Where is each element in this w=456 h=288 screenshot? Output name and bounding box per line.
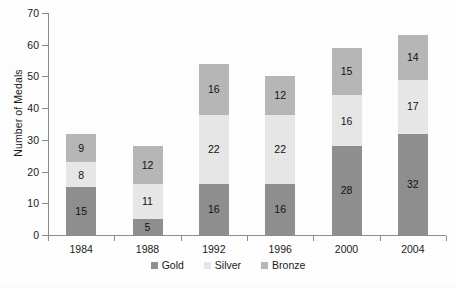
chart-legend: GoldSilverBronze [0, 259, 456, 271]
y-axis-tick-label: 50 [27, 70, 39, 82]
x-axis-tick-label: 2004 [401, 243, 424, 255]
bar-segment-value-label: 11 [142, 196, 153, 207]
bar-segment-gold[interactable]: 16 [265, 184, 295, 235]
bar-segment-silver[interactable]: 11 [133, 184, 163, 219]
bar-segment-value-label: 9 [78, 143, 84, 154]
bar-segment-value-label: 28 [341, 185, 353, 196]
bar-segment-value-label: 22 [274, 144, 286, 155]
bar-segment-value-label: 16 [274, 204, 286, 215]
bar-segment-gold[interactable]: 32 [398, 134, 428, 235]
x-axis-tick-mark [446, 236, 447, 241]
legend-swatch-icon [151, 262, 158, 269]
legend-swatch-icon [204, 262, 211, 269]
legend-item-silver[interactable]: Silver [204, 259, 241, 271]
bar-segment-bronze[interactable]: 16 [199, 64, 229, 115]
legend-item-bronze[interactable]: Bronze [261, 259, 305, 271]
bar-segment-bronze[interactable]: 12 [265, 76, 295, 114]
plot-area: 010203040506070 198419881992199620002004… [48, 13, 446, 236]
x-axis-tick-mark [48, 236, 49, 241]
bar-stack[interactable]: 321714 [398, 35, 428, 235]
y-axis-tick-mark [42, 13, 48, 14]
y-axis-tick-label: 40 [27, 102, 39, 114]
x-axis-tick-label: 1996 [268, 243, 291, 255]
bar-segment-value-label: 12 [142, 160, 154, 171]
x-axis-tick-label: 1984 [69, 243, 92, 255]
y-axis-tick-mark [42, 140, 48, 141]
bar-segment-value-label: 15 [341, 66, 353, 77]
y-axis-tick-mark [42, 172, 48, 173]
x-axis-tick-mark [247, 236, 248, 241]
y-axis-tick-mark [42, 76, 48, 77]
bar-segment-silver[interactable]: 16 [332, 95, 362, 146]
y-axis-tick-mark [42, 108, 48, 109]
y-axis-tick-label: 20 [27, 166, 39, 178]
bar-stack[interactable]: 51112 [133, 146, 163, 235]
bar-stack[interactable]: 281615 [332, 48, 362, 235]
bar-segment-value-label: 16 [208, 84, 220, 95]
bar-segment-silver[interactable]: 8 [66, 162, 96, 187]
bar-segment-value-label: 8 [78, 170, 84, 181]
legend-item-gold[interactable]: Gold [151, 259, 184, 271]
bar-segment-value-label: 5 [145, 222, 151, 233]
bar-segment-value-label: 12 [274, 90, 286, 101]
bar-stack[interactable]: 162216 [199, 64, 229, 235]
y-axis-title: Number of Medals [12, 58, 24, 168]
y-axis-tick-mark [42, 45, 48, 46]
bar-segment-value-label: 16 [208, 204, 220, 215]
bar-segment-bronze[interactable]: 12 [133, 146, 163, 184]
y-axis-tick-label: 30 [27, 134, 39, 146]
y-axis-line [48, 13, 49, 236]
y-axis-tick-label: 0 [33, 229, 39, 241]
x-axis-tick-mark [181, 236, 182, 241]
legend-swatch-icon [261, 262, 268, 269]
bar-segment-gold[interactable]: 5 [133, 219, 163, 235]
bar-segment-value-label: 17 [407, 101, 419, 112]
bar-segment-silver[interactable]: 22 [265, 115, 295, 185]
bar-segment-value-label: 16 [341, 116, 353, 127]
bar-segment-gold[interactable]: 15 [66, 187, 96, 235]
bar-segment-bronze[interactable]: 9 [66, 134, 96, 163]
bar-segment-bronze[interactable]: 14 [398, 35, 428, 79]
bar-segment-gold[interactable]: 16 [199, 184, 229, 235]
bar-segment-value-label: 15 [75, 206, 87, 217]
bar-segment-value-label: 32 [407, 179, 419, 190]
x-axis-tick-mark [313, 236, 314, 241]
y-axis-tick-label: 60 [27, 39, 39, 51]
y-axis-tick-label: 70 [27, 7, 39, 19]
x-axis-tick-mark [114, 236, 115, 241]
medals-stacked-bar-chart: Number of Medals 010203040506070 1984198… [0, 0, 456, 288]
legend-label: Bronze [272, 259, 305, 271]
x-axis-tick-label: 1988 [136, 243, 159, 255]
bar-segment-value-label: 14 [407, 52, 419, 63]
legend-label: Gold [162, 259, 184, 271]
bar-segment-silver[interactable]: 22 [199, 115, 229, 185]
x-axis-tick-label: 1992 [202, 243, 225, 255]
bar-stack[interactable]: 1589 [66, 134, 96, 235]
bar-segment-value-label: 22 [208, 144, 220, 155]
bar-segment-bronze[interactable]: 15 [332, 48, 362, 96]
y-axis-tick-mark [42, 203, 48, 204]
bar-segment-gold[interactable]: 28 [332, 146, 362, 235]
x-axis-tick-mark [380, 236, 381, 241]
x-axis-tick-label: 2000 [335, 243, 358, 255]
y-axis-tick-label: 10 [27, 197, 39, 209]
bar-stack[interactable]: 162212 [265, 76, 295, 235]
legend-label: Silver [215, 259, 241, 271]
bar-segment-silver[interactable]: 17 [398, 80, 428, 134]
